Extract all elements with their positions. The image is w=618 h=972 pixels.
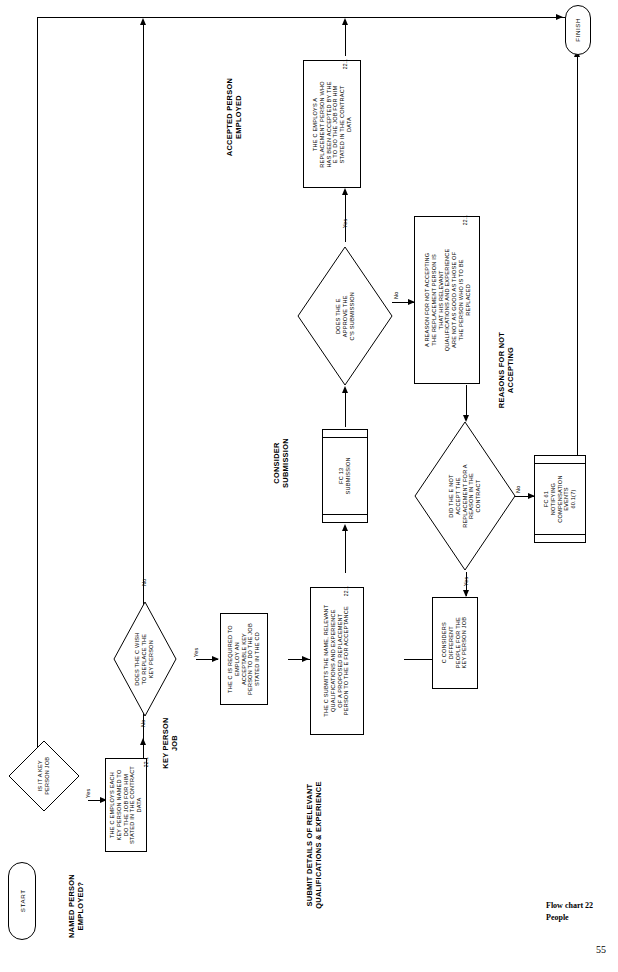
arrowhead-d2-yes bbox=[212, 656, 219, 662]
process-required-acceptable-key-person-label: THE C IS REQUIRED TOEMPLOY ANACCEPTABLE … bbox=[227, 623, 261, 695]
process-submit-replacement-details[interactable]: THE C SUBMITS THE NAME, RELEVANTQUALIFIC… bbox=[310, 587, 364, 735]
process-employ-accepted-replacement[interactable]: THE C EMPLOYS AREPLACEMENT PERSON WHOHAS… bbox=[303, 60, 361, 188]
caption-named-person-employed: NAMED PERSONEMPLOYED? bbox=[56, 852, 96, 960]
arrowhead-to-finish-left bbox=[556, 14, 563, 20]
decision-not-accept-for-contract-reason-label: DID THE E NOTACCEPT THEREPLACEMENT FOR A… bbox=[448, 464, 482, 528]
arrowhead-fc13-to-d3 bbox=[342, 386, 348, 393]
connector-p4-to-rail bbox=[345, 22, 346, 56]
caption-accepted-person-employed: ACCEPTED PERSONEMPLOYED bbox=[215, 52, 253, 182]
branch-label-d1-no: No bbox=[133, 716, 155, 730]
caption-submit-details: SUBMIT DETAILS OF RELEVANTQUALIFICATIONS… bbox=[300, 740, 328, 950]
process-reason-for-not-accepting[interactable]: A REASON FOR NOT ACCEPTINGTHE REPLACEMEN… bbox=[414, 216, 480, 384]
arrowhead-p4-to-rail bbox=[342, 18, 348, 25]
decision-is-key-person-job[interactable]: IS IT A KEYPERSON JOB bbox=[8, 740, 80, 812]
connector-p3-to-fc13 bbox=[345, 528, 346, 573]
caption-reasons-for-not-accepting: REASONS FOR NOTACCEPTING bbox=[488, 310, 524, 430]
decision-not-accept-for-contract-reason[interactable]: DID THE E NOTACCEPT THEREPLACEMENT FOR A… bbox=[414, 421, 516, 571]
arrowhead-d3-yes bbox=[342, 188, 348, 195]
branch-label-d3-no: No bbox=[386, 288, 408, 302]
footer-subtitle: People bbox=[546, 912, 593, 924]
process-employ-named-key-persons[interactable]: THE C EMPLOYS EACHKEY PERSON NAMED TODO … bbox=[105, 758, 147, 852]
arrowhead-p2-to-p3 bbox=[302, 656, 309, 662]
caption-key-person-job: KEY PERSONJOB bbox=[150, 700, 190, 786]
branch-label-d1-yes: Yes bbox=[78, 786, 100, 800]
branch-label-d4-yes: Yes bbox=[456, 574, 478, 588]
connector-left-rail bbox=[37, 17, 38, 777]
arrowhead-d4-yes bbox=[463, 590, 469, 597]
branch-label-d2-no: No bbox=[134, 575, 156, 589]
process-consider-different-people[interactable]: C CONSIDERSDIFFERENTPEOPLE FOR THEKEY PE… bbox=[432, 597, 478, 689]
page-number: 55 bbox=[596, 944, 606, 955]
connector-fc13-to-d3 bbox=[345, 390, 346, 427]
footer-title: Flow chart 22 bbox=[546, 900, 593, 912]
branch-label-d4-no: No bbox=[508, 482, 530, 496]
process-required-acceptable-key-person[interactable]: THE C IS REQUIRED TOEMPLOY ANACCEPTABLE … bbox=[220, 613, 268, 705]
decision-wish-to-replace-label: DOES THE C WISHTO REPLACE THEKEY PERSON bbox=[135, 632, 155, 685]
arrowhead-p3-to-fc13 bbox=[342, 524, 348, 531]
terminator-start-label: START bbox=[18, 890, 26, 913]
label-p3-ref: 22.1 bbox=[333, 586, 359, 596]
footer: Flow chart 22 People bbox=[546, 900, 593, 924]
connector-fc61-to-finish bbox=[577, 55, 578, 475]
process-reason-for-not-accepting-label: A REASON FOR NOT ACCEPTINGTHE REPLACEMEN… bbox=[423, 249, 471, 352]
arrowhead-p1-to-d2 bbox=[140, 738, 146, 745]
caption-consider-submission: CONSIDERSUBMISSION bbox=[264, 413, 298, 513]
predefined-process-fc61-compensation-events[interactable]: FC 61NOTIFYINGCOMPENSATIONEVENTS60.1(7) bbox=[534, 455, 586, 543]
predefined-process-fc13-submission[interactable]: FC 13SUBMISSION bbox=[322, 429, 368, 523]
connector-top-rail bbox=[37, 17, 577, 18]
terminator-start[interactable]: START bbox=[8, 862, 36, 940]
terminator-finish-label: FINISH bbox=[574, 18, 582, 42]
label-p4-ref: 22.1 bbox=[332, 59, 358, 69]
decision-is-key-person-job-label: IS IT A KEYPERSON JOB bbox=[37, 757, 51, 795]
flowchart-canvas: START FINISH IS IT A KEYPERSON JOB THE C… bbox=[0, 0, 618, 972]
label-p5-ref: 22.1 bbox=[452, 215, 478, 225]
connector-p6-loop-v bbox=[404, 659, 405, 660]
terminator-finish[interactable]: FINISH bbox=[565, 5, 591, 55]
process-employ-accepted-replacement-label: THE C EMPLOYS AREPLACEMENT PERSON WHOHAS… bbox=[312, 81, 353, 168]
branch-label-d3-yes: Yes bbox=[335, 216, 357, 230]
predefined-process-fc61-compensation-events-label: FC 61NOTIFYINGCOMPENSATIONEVENTS60.1(7) bbox=[543, 475, 577, 522]
process-consider-different-people-label: C CONSIDERSDIFFERENTPEOPLE FOR THEKEY PE… bbox=[441, 617, 468, 669]
process-submit-replacement-details-label: THE C SUBMITS THE NAME, RELEVANTQUALIFIC… bbox=[323, 605, 350, 717]
decision-e-approves-submission-label: DOES THE EAPPROVE THEC'S SUBMISSION bbox=[335, 292, 355, 340]
connector-p6-loop-h bbox=[404, 659, 432, 660]
predefined-process-fc13-submission-label: FC 13SUBMISSION bbox=[338, 457, 352, 494]
branch-label-d2-yes: Yes bbox=[186, 645, 208, 659]
process-employ-named-key-persons-label: THE C EMPLOYS EACHKEY PERSON NAMED TODO … bbox=[109, 766, 143, 844]
arrowhead-d1-no bbox=[140, 18, 146, 25]
decision-e-approves-submission[interactable]: DOES THE EAPPROVE THEC'S SUBMISSION bbox=[297, 246, 393, 386]
